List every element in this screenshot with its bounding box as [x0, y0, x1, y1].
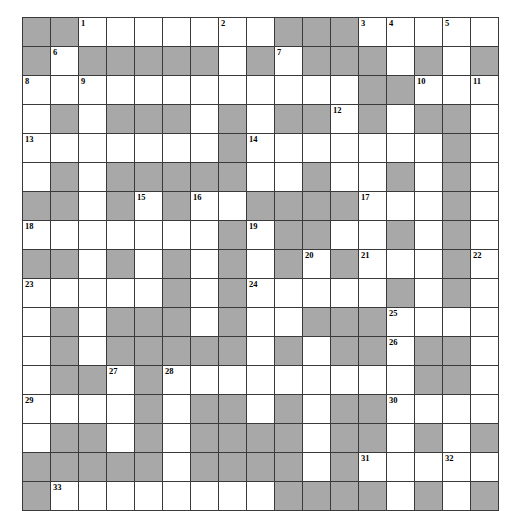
crossword-cell[interactable] [135, 482, 163, 511]
crossword-cell[interactable] [79, 308, 107, 337]
crossword-cell[interactable]: 4 [387, 18, 415, 47]
crossword-cell[interactable] [443, 395, 471, 424]
crossword-cell[interactable] [191, 308, 219, 337]
crossword-cell[interactable]: 30 [387, 395, 415, 424]
crossword-cell[interactable]: 22 [471, 250, 499, 279]
crossword-cell[interactable]: 6 [51, 47, 79, 76]
crossword-cell[interactable] [331, 366, 359, 395]
crossword-cell[interactable] [163, 76, 191, 105]
crossword-cell[interactable] [107, 221, 135, 250]
crossword-cell[interactable] [247, 366, 275, 395]
crossword-cell[interactable] [443, 76, 471, 105]
crossword-cell[interactable] [443, 308, 471, 337]
crossword-cell[interactable] [247, 337, 275, 366]
crossword-cell[interactable] [247, 105, 275, 134]
crossword-cell[interactable] [471, 192, 499, 221]
crossword-cell[interactable] [359, 279, 387, 308]
crossword-cell[interactable] [51, 134, 79, 163]
crossword-cell[interactable] [23, 105, 51, 134]
crossword-cell[interactable] [51, 221, 79, 250]
crossword-cell[interactable]: 18 [23, 221, 51, 250]
crossword-cell[interactable] [135, 279, 163, 308]
crossword-cell[interactable] [303, 453, 331, 482]
crossword-cell[interactable]: 8 [23, 76, 51, 105]
crossword-cell[interactable]: 13 [23, 134, 51, 163]
crossword-cell[interactable] [135, 134, 163, 163]
crossword-cell[interactable] [191, 279, 219, 308]
crossword-cell[interactable] [359, 134, 387, 163]
crossword-cell[interactable] [359, 366, 387, 395]
crossword-cell[interactable] [107, 76, 135, 105]
crossword-cell[interactable]: 23 [23, 279, 51, 308]
crossword-cell[interactable] [331, 76, 359, 105]
crossword-cell[interactable] [415, 453, 443, 482]
crossword-cell[interactable]: 7 [275, 47, 303, 76]
crossword-cell[interactable] [303, 134, 331, 163]
crossword-cell[interactable] [79, 482, 107, 511]
crossword-cell[interactable] [107, 279, 135, 308]
crossword-cell[interactable] [415, 279, 443, 308]
crossword-cell[interactable]: 11 [471, 76, 499, 105]
crossword-cell[interactable] [163, 18, 191, 47]
crossword-cell[interactable] [135, 18, 163, 47]
crossword-cell[interactable] [471, 366, 499, 395]
crossword-cell[interactable]: 10 [415, 76, 443, 105]
crossword-cell[interactable] [79, 192, 107, 221]
crossword-cell[interactable] [79, 105, 107, 134]
crossword-cell[interactable] [415, 308, 443, 337]
crossword-cell[interactable] [191, 366, 219, 395]
crossword-cell[interactable] [79, 134, 107, 163]
crossword-cell[interactable]: 1 [79, 18, 107, 47]
crossword-cell[interactable] [275, 134, 303, 163]
crossword-cell[interactable] [331, 279, 359, 308]
crossword-cell[interactable] [471, 453, 499, 482]
crossword-cell[interactable]: 32 [443, 453, 471, 482]
crossword-cell[interactable]: 25 [387, 308, 415, 337]
crossword-cell[interactable]: 19 [247, 221, 275, 250]
crossword-cell[interactable] [219, 192, 247, 221]
crossword-cell[interactable] [387, 424, 415, 453]
crossword-cell[interactable] [415, 395, 443, 424]
crossword-cell[interactable] [415, 221, 443, 250]
crossword-cell[interactable]: 21 [359, 250, 387, 279]
crossword-cell[interactable] [303, 279, 331, 308]
crossword-cell[interactable] [303, 395, 331, 424]
crossword-cell[interactable] [23, 308, 51, 337]
crossword-cell[interactable]: 12 [331, 105, 359, 134]
crossword-cell[interactable] [247, 163, 275, 192]
crossword-cell[interactable] [247, 18, 275, 47]
crossword-cell[interactable] [23, 337, 51, 366]
crossword-cell[interactable] [387, 482, 415, 511]
crossword-cell[interactable] [191, 105, 219, 134]
crossword-cell[interactable] [247, 76, 275, 105]
crossword-cell[interactable] [387, 366, 415, 395]
crossword-cell[interactable] [415, 134, 443, 163]
crossword-cell[interactable] [163, 482, 191, 511]
crossword-cell[interactable]: 27 [107, 366, 135, 395]
crossword-cell[interactable]: 29 [23, 395, 51, 424]
crossword-cell[interactable] [303, 76, 331, 105]
crossword-cell[interactable] [219, 366, 247, 395]
crossword-cell[interactable] [275, 163, 303, 192]
crossword-cell[interactable] [471, 279, 499, 308]
crossword-cell[interactable] [471, 105, 499, 134]
crossword-cell[interactable] [79, 221, 107, 250]
crossword-cell[interactable] [387, 134, 415, 163]
crossword-cell[interactable] [331, 163, 359, 192]
crossword-cell[interactable] [219, 482, 247, 511]
crossword-cell[interactable] [191, 134, 219, 163]
crossword-cell[interactable] [275, 279, 303, 308]
crossword-cell[interactable] [23, 424, 51, 453]
crossword-cell[interactable] [359, 163, 387, 192]
crossword-cell[interactable]: 31 [359, 453, 387, 482]
crossword-cell[interactable] [79, 163, 107, 192]
crossword-cell[interactable] [303, 424, 331, 453]
crossword-cell[interactable] [191, 76, 219, 105]
crossword-cell[interactable] [107, 134, 135, 163]
crossword-cell[interactable] [471, 163, 499, 192]
crossword-cell[interactable] [415, 18, 443, 47]
crossword-cell[interactable] [415, 163, 443, 192]
crossword-cell[interactable]: 14 [247, 134, 275, 163]
crossword-cell[interactable] [163, 424, 191, 453]
crossword-cell[interactable] [23, 163, 51, 192]
